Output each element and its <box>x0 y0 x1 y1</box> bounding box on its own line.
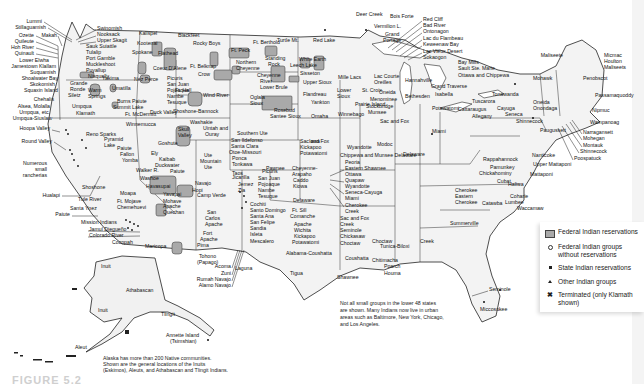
note-line: areas such as Baltimore, New York, Chica… <box>340 314 444 320</box>
place-label: Siletz <box>68 92 81 98</box>
place-label: Bethesden <box>405 93 430 99</box>
place-label: Shawnee <box>337 274 359 280</box>
place-label: Laguna <box>235 265 252 271</box>
place-label: Shoshone-Bannock <box>173 108 219 114</box>
filled-square-icon <box>545 264 555 269</box>
place-label: Grand Traverse <box>431 83 467 89</box>
place-label: Paugussett <box>540 127 567 133</box>
place-label: Havasupai <box>146 183 171 189</box>
place-label: Cheyenne <box>236 65 260 71</box>
place-label: Keweenaw Bay <box>423 41 459 47</box>
place-label: Chippewa and Munsee Delaware <box>340 152 417 158</box>
place-label: Iowa <box>309 138 320 144</box>
place-label: Ely <box>151 150 159 156</box>
place-label: Allegany <box>472 113 492 119</box>
triangle-icon <box>545 278 555 283</box>
place-label: Navajo <box>195 180 211 186</box>
place-label: Lower Brule <box>260 84 288 90</box>
place-label: Red Lake <box>313 37 335 43</box>
place-label: Chemehuevi <box>117 204 146 210</box>
place-label: Hoopa Valley <box>20 125 51 131</box>
place-label: Paiute <box>170 168 185 174</box>
place-label: Quechan <box>163 209 184 215</box>
reservation-box-icon <box>545 228 555 238</box>
place-label: Goshute <box>158 140 178 146</box>
place-label: Tigua <box>290 270 303 276</box>
place-label: Tunica-Biloxi <box>380 243 410 249</box>
place-label: Wind River <box>203 92 229 98</box>
place-label: Poospatuck <box>574 155 602 161</box>
place-label: Tlingit <box>161 311 175 317</box>
place-label: Ft. Belknap <box>190 63 216 69</box>
place-label: Jicarilla <box>232 174 249 180</box>
place-label: Squaxin Island <box>24 87 58 93</box>
alaska-note: Alaska has more than 200 Native communit… <box>103 355 228 373</box>
place-label: Shoshone <box>82 184 105 190</box>
place-label: Round Valley <box>22 138 53 144</box>
legend-label: State Indian reservations <box>558 264 631 272</box>
place-label: Omaha <box>311 113 328 119</box>
place-label: Choctaw <box>340 240 360 246</box>
place-label: Ottawa and Chippewa <box>458 72 509 78</box>
place-label: (Tsimshian) <box>170 338 197 344</box>
place-label: Cherokee <box>455 199 478 205</box>
place-label: Yavapai <box>163 191 181 197</box>
place-label: Paiute <box>55 211 70 217</box>
place-label: Onondaga <box>533 105 557 111</box>
place-label: Houma <box>384 270 401 276</box>
place-label: Aleut <box>75 344 87 350</box>
place-label: Chickahominy <box>479 170 512 176</box>
place-label: Hualapi <box>42 192 60 198</box>
place-label: Potawatomi <box>292 239 319 245</box>
place-label: Comanche <box>290 213 315 219</box>
place-label: Yomba <box>122 157 138 163</box>
place-label: Upper Sioux <box>303 79 332 85</box>
place-label: Creek <box>420 238 434 244</box>
place-label: Yakima <box>102 75 119 81</box>
place-label: Passamaquoddy <box>595 92 634 98</box>
place-label: Sioux <box>250 100 263 106</box>
place-label: Turtle Mt. <box>277 37 299 43</box>
place-label: Quinault <box>15 50 35 56</box>
place-label: Mohegan <box>583 135 605 141</box>
place-label: Maliseete <box>541 52 563 58</box>
place-label: Hannahville <box>405 77 432 83</box>
place-label: Ontonagon <box>423 28 449 34</box>
place-label: Inuit <box>98 307 108 313</box>
place-label: Santee Sioux <box>270 113 301 119</box>
place-label: Mescalero <box>250 238 274 244</box>
lower48-note: Not all small groups in the lower 48 sta… <box>340 300 444 327</box>
place-label: Shinnecock <box>516 118 543 124</box>
place-label: Cattaraugus <box>458 106 487 112</box>
place-label: Athabascan <box>126 287 154 293</box>
note-line: (Eskimos), Aleuts, and Athabascan and Tl… <box>103 367 228 373</box>
legend-item-other-groups: Other Indian groups <box>545 278 644 286</box>
place-label: Umpqua <box>72 103 92 109</box>
place-label: Lake <box>104 142 115 148</box>
place-label: Miami <box>345 195 359 201</box>
place-label: Vermilion L. <box>374 23 401 29</box>
note-line: and Los Angeles. <box>340 321 380 327</box>
place-label: Menominee <box>370 96 397 102</box>
place-label: Santa Ynez <box>70 205 97 211</box>
place-label: Sisseton <box>300 70 320 76</box>
legend-label: Federal Indian groups without reservatio… <box>558 243 644 259</box>
place-label: Munsee <box>368 109 387 115</box>
place-label: Umatilla <box>112 85 131 91</box>
place-label: Creek <box>345 208 359 214</box>
place-label: Apache <box>205 221 223 227</box>
place-label: Flathead <box>158 50 178 56</box>
place-label: Mattaponi <box>530 171 553 177</box>
legend-label: Other Indian groups <box>558 278 616 286</box>
place-label: Alamo Navajo <box>199 282 231 288</box>
legend-item-federal-reservations: Federal Indian reservations <box>545 228 644 238</box>
place-label: Ute <box>204 164 212 170</box>
place-label: Kiowa <box>293 183 307 189</box>
place-label: Umpqua-Siuslaw <box>13 115 52 121</box>
place-label: Makah <box>41 32 57 38</box>
place-label: Acoma <box>215 263 231 269</box>
open-circle-icon <box>545 243 555 250</box>
place-label: Washoe <box>140 175 159 181</box>
place-label: Sac and Fox <box>380 118 410 124</box>
place-label: Valley <box>178 132 192 138</box>
